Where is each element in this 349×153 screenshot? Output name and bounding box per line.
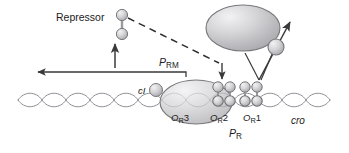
cro-gene-label: cro [291, 116, 305, 126]
repressor-label: Repressor [56, 12, 104, 23]
prm-subscript: RM [166, 61, 179, 70]
polymerase-v-lines [245, 52, 273, 80]
figure-canvas [0, 0, 349, 153]
sigma-factor-circle [268, 39, 284, 55]
or2-number: 2 [223, 112, 228, 123]
ci-monomer-circle [150, 84, 163, 97]
or1-number: 1 [256, 112, 261, 123]
operator-or3-label: OR3 [171, 113, 189, 124]
pr-subscript: R [236, 132, 242, 141]
prm-base: P [159, 56, 166, 68]
pr-base: P [229, 127, 236, 139]
or3-number: 3 [184, 112, 189, 123]
operator-or1-label: OR1 [243, 113, 261, 124]
rna-polymerase [206, 5, 284, 55]
repressor-dimer-free [116, 9, 127, 39]
promoter-prm-label: PRM [159, 57, 179, 70]
ci-gene-label: cI [138, 86, 145, 96]
leftward-transcription-arrow [38, 72, 186, 77]
operator-or2-label: OR2 [210, 113, 228, 124]
lambda-regulation-figure: Repressor PRM PR cI cro OR3 OR2 OR1 [0, 0, 349, 153]
promoter-pr-label: PR [229, 128, 242, 141]
